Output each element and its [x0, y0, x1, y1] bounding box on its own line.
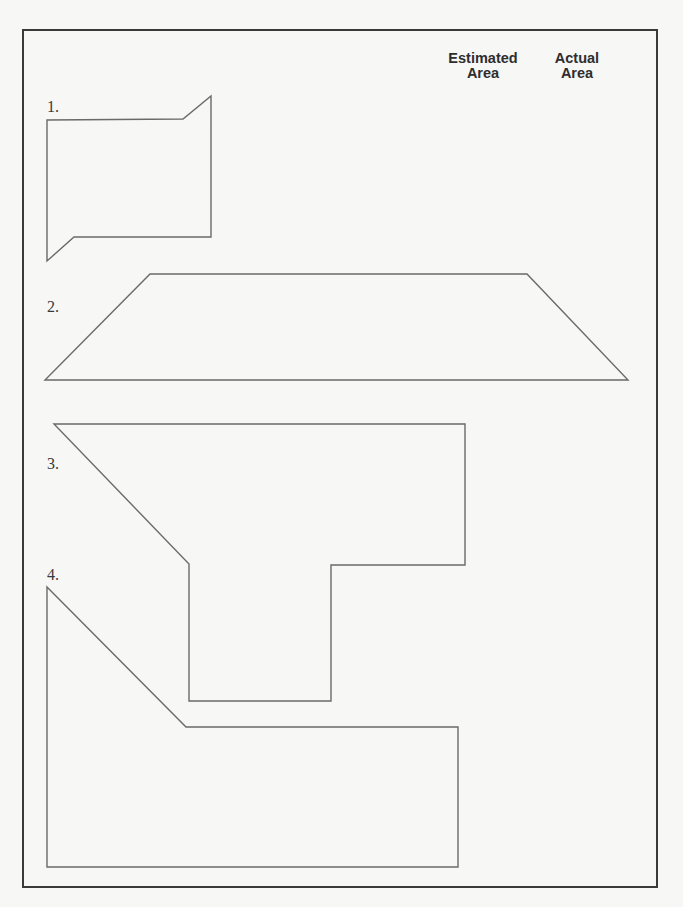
problem-2-label: 2.: [47, 299, 59, 315]
shape-4-polygon: [47, 587, 458, 867]
problem-1-label: 1.: [47, 99, 59, 115]
problem-3-label: 3.: [47, 456, 59, 472]
shape-1-polygon: [47, 96, 211, 261]
shape-3-polygon: [54, 424, 465, 701]
shapes-canvas: [0, 0, 683, 907]
shape-2-trapezoid: [45, 274, 628, 380]
problem-4-label: 4.: [47, 567, 59, 583]
